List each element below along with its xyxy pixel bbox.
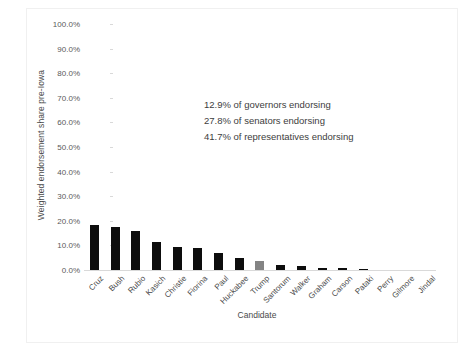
bar-slot	[146, 24, 167, 270]
annotation-line-senators: 27.8% of senators endorsing	[204, 113, 353, 129]
x-axis-line	[84, 270, 436, 271]
x-axis-label-bush: Bush	[107, 274, 126, 293]
x-axis-label-pataki: Pataki	[353, 274, 375, 296]
bar-fiorina[interactable]	[193, 248, 202, 270]
bar-slot	[208, 24, 229, 270]
bar-kasich[interactable]	[152, 242, 161, 270]
y-axis-tick-label: 60.0%	[36, 118, 80, 127]
bar-slot	[374, 24, 395, 270]
y-axis-tick-label: 80.0%	[36, 69, 80, 78]
annotation-line-representatives: 41.7% of representatives endorsing	[204, 129, 353, 145]
y-axis-tick-label: 90.0%	[36, 44, 80, 53]
y-axis-tick-label: 20.0%	[36, 216, 80, 225]
bar-bush[interactable]	[111, 227, 120, 270]
bar-slot	[415, 24, 436, 270]
x-axis-label-rubio: Rubio	[126, 274, 147, 295]
x-axis-title-text: Candidate	[238, 310, 277, 320]
x-axis-label-carson: Carson	[330, 274, 355, 299]
y-axis-tick-label: 100.0%	[36, 20, 80, 29]
x-axis-label-christie: Christie	[163, 274, 189, 300]
y-axis-tick-label: 50.0%	[36, 143, 80, 152]
plot-area	[84, 24, 436, 270]
chart-container: Weighted endorsement share pre-Iowa 100.…	[0, 0, 466, 351]
bar-slot	[353, 24, 374, 270]
bar-trump[interactable]	[255, 261, 264, 270]
bar-slot	[167, 24, 188, 270]
bar-slot	[250, 24, 271, 270]
bar-slot	[105, 24, 126, 270]
annotation-block: 12.9% of governors endorsing 27.8% of se…	[204, 97, 353, 145]
y-axis-tick-label: 30.0%	[36, 192, 80, 201]
bar-cruz[interactable]	[90, 225, 99, 271]
y-axis-tick-label: 40.0%	[36, 167, 80, 176]
bar-slot	[229, 24, 250, 270]
x-axis-label-jindal: Jindal	[416, 274, 437, 295]
x-axis-label-gilmore: Gilmore	[390, 274, 416, 300]
x-axis-label-fiorina: Fiorina	[186, 274, 210, 298]
bar-slot	[395, 24, 416, 270]
bar-slot	[270, 24, 291, 270]
y-axis-ticks: 100.0%90.0%80.0%70.0%60.0%50.0%40.0%30.0…	[30, 0, 80, 351]
bar-slot	[125, 24, 146, 270]
bar-slot	[291, 24, 312, 270]
annotation-line-governors: 12.9% of governors endorsing	[204, 97, 353, 113]
bar-slot	[312, 24, 333, 270]
x-axis-title: Candidate	[0, 310, 466, 320]
y-axis-tick-label: 0.0%	[36, 266, 80, 275]
y-axis-tick-label: 10.0%	[36, 241, 80, 250]
bar-paul[interactable]	[214, 253, 223, 270]
bar-slot	[188, 24, 209, 270]
bar-rubio[interactable]	[131, 231, 140, 270]
y-axis-tick-label: 70.0%	[36, 93, 80, 102]
bar-christie[interactable]	[173, 247, 182, 270]
bar-slot	[332, 24, 353, 270]
bar-huckabee[interactable]	[235, 258, 244, 270]
bar-slot	[84, 24, 105, 270]
x-axis-label-cruz: Cruz	[87, 274, 105, 292]
